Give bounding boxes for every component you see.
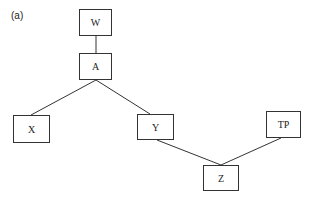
edge-a-x <box>31 80 96 115</box>
diagram-edges <box>0 0 311 204</box>
node-z: Z <box>203 165 239 191</box>
node-x: X <box>13 115 50 143</box>
node-y: Y <box>137 114 174 140</box>
node-x-label: X <box>28 124 35 135</box>
node-w: W <box>79 9 112 36</box>
edge-y-z <box>157 140 221 165</box>
edge-tp-z <box>221 138 281 165</box>
node-a: A <box>79 53 112 80</box>
node-a-label: A <box>92 61 99 72</box>
node-w-label: W <box>91 17 100 28</box>
edge-a-y <box>96 80 150 114</box>
node-tp-label: TP <box>278 119 290 130</box>
node-z-label: Z <box>218 173 224 184</box>
node-tp: TP <box>266 111 301 138</box>
node-y-label: Y <box>152 122 159 133</box>
